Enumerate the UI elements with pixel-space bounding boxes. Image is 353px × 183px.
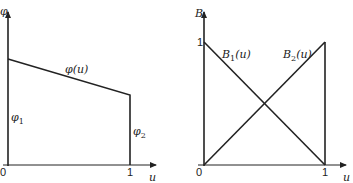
phi-curve-label: φ(u)	[65, 64, 88, 75]
phi1-subscript: 1	[19, 117, 24, 126]
right-chart	[198, 12, 346, 166]
left-chart	[3, 12, 156, 166]
right-x-tick-1: 1	[322, 167, 328, 178]
phi1-symbol: φ	[11, 111, 19, 124]
right-y-axis-label: B	[195, 8, 203, 19]
left-y-axis-label: φ	[0, 6, 8, 17]
b1-symbol: B	[222, 48, 230, 61]
left-x-tick-1: 1	[127, 167, 133, 178]
right-x-axis-label: u	[343, 172, 350, 183]
phi2-subscript: 2	[141, 131, 146, 140]
diagram-canvas	[0, 0, 353, 183]
b1-argument: (u)	[235, 48, 251, 61]
b2-argument: (u)	[296, 48, 312, 61]
b2-label: B2(u)	[283, 49, 312, 63]
b1-label: B1(u)	[222, 49, 251, 63]
phi2-label: φ2	[133, 126, 146, 140]
left-x-axis-label: u	[149, 172, 156, 183]
phi2-symbol: φ	[133, 125, 141, 138]
right-y-tick-1: 1	[197, 37, 203, 48]
b2-symbol: B	[283, 48, 291, 61]
right-origin-label: 0	[196, 167, 202, 178]
left-origin-label: 0	[0, 167, 6, 178]
phi1-label: φ1	[11, 112, 24, 126]
